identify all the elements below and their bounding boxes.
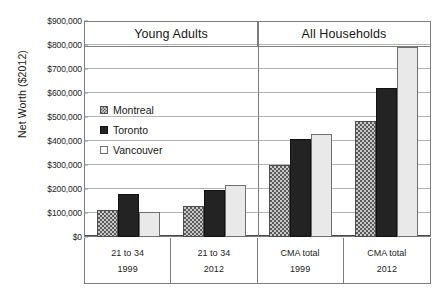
- chart-legend: Montreal Toronto Vancouver: [100, 100, 162, 160]
- bar-toronto[interactable]: [376, 88, 397, 237]
- bar-montreal[interactable]: [97, 210, 118, 237]
- x-year-label: 2012: [377, 264, 397, 274]
- bar-vancouver[interactable]: [139, 212, 160, 237]
- bar-group: [171, 22, 257, 237]
- legend-swatch-toronto-icon: [100, 126, 108, 134]
- bar-vancouver[interactable]: [311, 134, 332, 237]
- y-tick-label: $400,000: [47, 136, 82, 146]
- panel-title-young-adults: Young Adults: [85, 22, 257, 46]
- net-worth-bar-chart: Net Worth ($2012) $900,000$800,000$700,0…: [0, 0, 439, 302]
- y-tick-label: $200,000: [47, 184, 82, 194]
- bar-group: [258, 22, 344, 237]
- bar-toronto[interactable]: [290, 139, 311, 237]
- bar-toronto[interactable]: [204, 190, 225, 237]
- x-category-label: CMA total: [281, 248, 320, 258]
- bar-montreal[interactable]: [183, 206, 204, 237]
- x-axis-category-cell: CMA total1999: [258, 238, 344, 283]
- y-axis-title: Net Worth ($2012): [16, 24, 28, 164]
- bar-montreal[interactable]: [269, 165, 290, 237]
- legend-label-montreal: Montreal: [113, 104, 154, 116]
- legend-item-montreal: Montreal: [100, 100, 162, 120]
- x-category-label: CMA total: [367, 248, 406, 258]
- x-axis-category-cell: 21 to 341999: [85, 238, 171, 283]
- bar-vancouver[interactable]: [225, 185, 246, 237]
- x-year-label: 1999: [118, 264, 138, 274]
- legend-swatch-montreal-icon: [100, 106, 108, 114]
- x-axis-category-labels: 21 to 34199921 to 342012CMA total1999CMA…: [84, 238, 431, 284]
- bar-montreal[interactable]: [355, 121, 376, 237]
- y-tick-label: $500,000: [47, 112, 82, 122]
- y-tick-label: $700,000: [47, 64, 82, 74]
- bar-toronto[interactable]: [118, 194, 139, 237]
- y-tick-label: $0: [73, 232, 82, 242]
- x-year-label: 2012: [204, 264, 224, 274]
- bar-vancouver[interactable]: [397, 47, 418, 237]
- x-year-label: 1999: [290, 264, 310, 274]
- x-axis-category-cell: 21 to 342012: [171, 238, 257, 283]
- y-tick-label: $600,000: [47, 88, 82, 98]
- y-tick-label: $900,000: [47, 16, 82, 26]
- x-axis-category-cell: CMA total2012: [344, 238, 430, 283]
- y-axis-tick-labels: $900,000$800,000$700,000$600,000$500,000…: [28, 0, 82, 302]
- legend-item-toronto: Toronto: [100, 120, 162, 140]
- legend-label-toronto: Toronto: [113, 124, 148, 136]
- panel-title-all-households: All Households: [257, 22, 430, 46]
- legend-item-vancouver: Vancouver: [100, 140, 162, 160]
- x-category-label: 21 to 34: [198, 248, 231, 258]
- legend-label-vancouver: Vancouver: [113, 144, 162, 156]
- panel-divider: [258, 21, 259, 237]
- y-tick-label: $800,000: [47, 40, 82, 50]
- panel-header-band: Young Adults All Households: [84, 21, 431, 47]
- x-category-label: 21 to 34: [111, 248, 144, 258]
- y-tick-label: $100,000: [47, 208, 82, 218]
- legend-swatch-vancouver-icon: [100, 146, 108, 154]
- y-tick-label: $300,000: [47, 160, 82, 170]
- bar-group: [344, 22, 430, 237]
